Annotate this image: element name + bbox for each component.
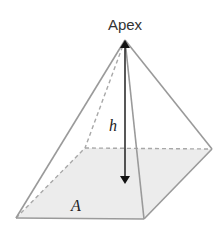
- pyramid-diagram: Apex h A: [0, 0, 221, 231]
- base-area-label: A: [70, 197, 81, 214]
- edge-apex-to-back-right: [125, 40, 212, 149]
- edge-front-base: [16, 218, 144, 219]
- base-face: [16, 148, 212, 219]
- height-label: h: [109, 117, 117, 134]
- apex-label: Apex: [108, 16, 143, 33]
